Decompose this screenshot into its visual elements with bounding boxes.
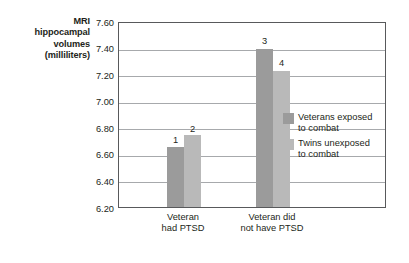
x-category-label-no-ptsd: Veteran did not have PTSD: [212, 212, 332, 235]
y-tick-label-6.60: 6.60: [74, 151, 114, 160]
bar-point-label-3: 3: [255, 37, 275, 46]
bar-veterans-exposed-had-ptsd: [167, 147, 184, 207]
gridline-7.20: [119, 76, 385, 77]
bar-point-label-2: 2: [183, 125, 203, 134]
legend-item-twins-unexposed: Twins unexposed to combat: [283, 138, 383, 159]
legend-swatch-icon-veterans-exposed: [283, 113, 294, 124]
y-tick-label-7.40: 7.40: [74, 45, 114, 54]
bar-point-label-4: 4: [272, 59, 292, 68]
x-category-label-no-ptsd-line-2: not have PTSD: [212, 223, 332, 234]
x-category-label-no-ptsd-line-1: Veteran did: [212, 212, 332, 223]
legend-label-veterans-exposed: Veterans exposed to combat: [298, 112, 372, 133]
legend: Veterans exposed to combat Twins unexpos…: [283, 112, 383, 164]
y-tick-label-7.20: 7.20: [74, 72, 114, 81]
gridline-7.00: [119, 103, 385, 104]
bar-point-label-1: 1: [166, 136, 186, 145]
legend-swatch-icon-twins-unexposed: [283, 139, 294, 150]
y-tick-label-7.00: 7.00: [74, 98, 114, 107]
y-tick-label-7.60: 7.60: [74, 19, 114, 28]
legend-item-veterans-exposed: Veterans exposed to combat: [283, 112, 383, 133]
bar-chart: MRI hippocampal volumes (milliliters) 7.…: [0, 0, 409, 263]
bar-twins-unexposed-had-ptsd: [184, 135, 201, 207]
legend-label-twins-unexposed: Twins unexposed to combat: [298, 138, 370, 159]
y-tick-label-6.40: 6.40: [74, 178, 114, 187]
gridline-7.40: [119, 50, 385, 51]
bar-veterans-exposed-no-ptsd: [256, 49, 273, 207]
y-tick-label-6.80: 6.80: [74, 125, 114, 134]
y-axis-title-line-2: hippocampal: [4, 27, 90, 38]
y-tick-label-6.20: 6.20: [74, 205, 114, 214]
gridline-6.40: [119, 182, 385, 183]
